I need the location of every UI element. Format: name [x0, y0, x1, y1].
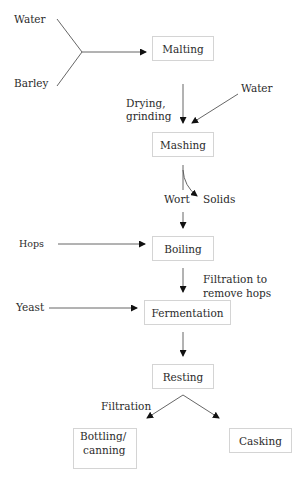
resting-step-box: Resting — [152, 364, 214, 389]
malting-step-box: Malting — [152, 36, 214, 61]
filtration-label: Filtration — [101, 400, 151, 413]
bottling-step-label-line1: Bottling/ — [80, 429, 126, 443]
water-to-junction-line — [57, 19, 82, 52]
drying-annotation-line2: grinding — [126, 110, 171, 123]
boiling-step-label: Boiling — [164, 242, 202, 256]
solids-label: Solids — [203, 193, 235, 206]
resting-to-bottling-arrow — [147, 395, 183, 418]
drying-annotation-line1: Drying, — [126, 97, 166, 110]
resting-step-label: Resting — [163, 370, 204, 384]
boiling-step-box: Boiling — [152, 236, 214, 261]
resting-to-casking-arrow — [183, 395, 219, 418]
casking-step-box: Casking — [229, 428, 292, 453]
yeast-input-label: Yeast — [16, 301, 44, 314]
fermentation-step-label: Fermentation — [151, 306, 223, 320]
bottling-step-label-line2: canning — [80, 443, 126, 457]
mashing-step-box: Mashing — [152, 132, 214, 157]
wort-label: Wort — [164, 193, 190, 206]
mashing-step-label: Mashing — [160, 138, 206, 152]
barley-to-junction-line — [57, 52, 82, 86]
fermentation-step-box: Fermentation — [144, 300, 231, 325]
filtration-hops-line1: Filtration to — [203, 273, 267, 286]
water-mashing-input-label: Water — [241, 82, 273, 95]
malting-step-label: Malting — [162, 42, 203, 56]
filtration-hops-line2: remove hops — [203, 287, 271, 300]
hops-input-label: Hops — [19, 237, 44, 250]
water-to-mashing-arrow — [192, 94, 238, 123]
barley-input-label: Barley — [14, 77, 49, 90]
casking-step-label: Casking — [239, 434, 282, 448]
water-input-label: Water — [14, 13, 46, 26]
bottling-step-box: Bottling/ canning — [73, 428, 137, 469]
